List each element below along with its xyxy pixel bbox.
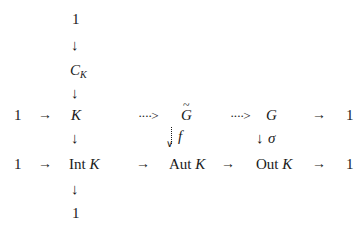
node-bottom-one: 1 — [72, 206, 80, 221]
label-f: f — [178, 129, 182, 144]
arrow-down-4: ↓ — [71, 182, 79, 197]
node-right-one-row2: 1 — [346, 157, 354, 172]
arrow-right-row2-d: → — [312, 157, 326, 171]
center-subscript: K — [80, 69, 87, 80]
arrow-dotted-right-1: ····> — [138, 109, 158, 122]
out-arg: K — [282, 156, 292, 172]
node-int-k: Int K — [69, 157, 99, 172]
node-aut-k: Aut K — [169, 157, 205, 172]
node-top-one: 1 — [72, 12, 80, 27]
label-sigma: σ — [268, 131, 275, 146]
arrow-down-3: ↓ — [71, 131, 79, 146]
arrow-down-2: ↓ — [71, 86, 79, 101]
node-center-ck: CK — [70, 63, 87, 78]
node-g-tilde: G — [181, 108, 192, 123]
int-arg: K — [89, 156, 99, 172]
aut-op: Aut — [169, 156, 192, 172]
arrow-right-row2-c: → — [221, 157, 235, 171]
arrow-right-row2-a: → — [38, 157, 52, 171]
tilde-accent-icon: G — [181, 108, 192, 123]
out-op: Out — [256, 156, 279, 172]
arrow-dotted-right-2: ····> — [230, 109, 250, 122]
node-left-one-row1: 1 — [14, 108, 22, 123]
arrow-dotted-down-head-icon: ∨ — [166, 139, 173, 149]
arrow-right-row2-b: → — [136, 157, 150, 171]
arrow-right-row1-b: → — [312, 108, 326, 122]
int-op: Int — [69, 156, 86, 172]
node-left-one-row2: 1 — [14, 157, 22, 172]
node-g: G — [266, 108, 277, 123]
node-right-one-row1: 1 — [346, 108, 354, 123]
node-out-k: Out K — [256, 157, 292, 172]
node-k: K — [71, 108, 81, 123]
arrow-down-sigma: ↓ — [256, 131, 264, 146]
arrow-right-row1-a: → — [38, 108, 52, 122]
aut-arg: K — [195, 156, 205, 172]
arrow-down-1: ↓ — [71, 38, 79, 53]
center-base: C — [70, 62, 80, 78]
